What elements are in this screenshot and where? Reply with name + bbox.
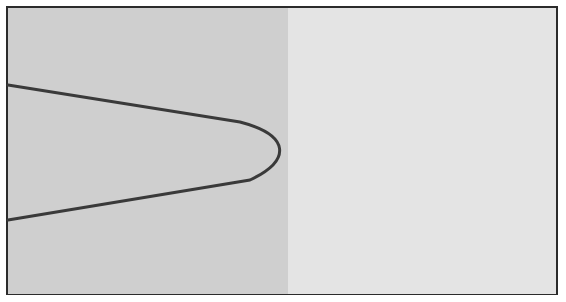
boundary-curve	[0, 0, 566, 302]
parabola-line	[8, 85, 280, 220]
